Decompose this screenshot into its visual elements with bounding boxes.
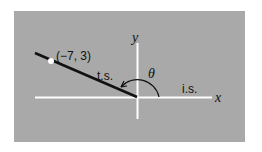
point-marker (48, 58, 54, 64)
theta-label: θ (148, 66, 155, 81)
x-axis-label: x (214, 90, 222, 105)
y-axis-label: y (130, 30, 139, 45)
terminal-side-label: t.s. (97, 69, 113, 83)
angle-diagram: (−7, 3) t.s. i.s. θ y x (0, 0, 262, 152)
point-label: (−7, 3) (56, 49, 91, 63)
angle-arc (121, 80, 159, 97)
initial-side-label: i.s. (182, 82, 197, 96)
